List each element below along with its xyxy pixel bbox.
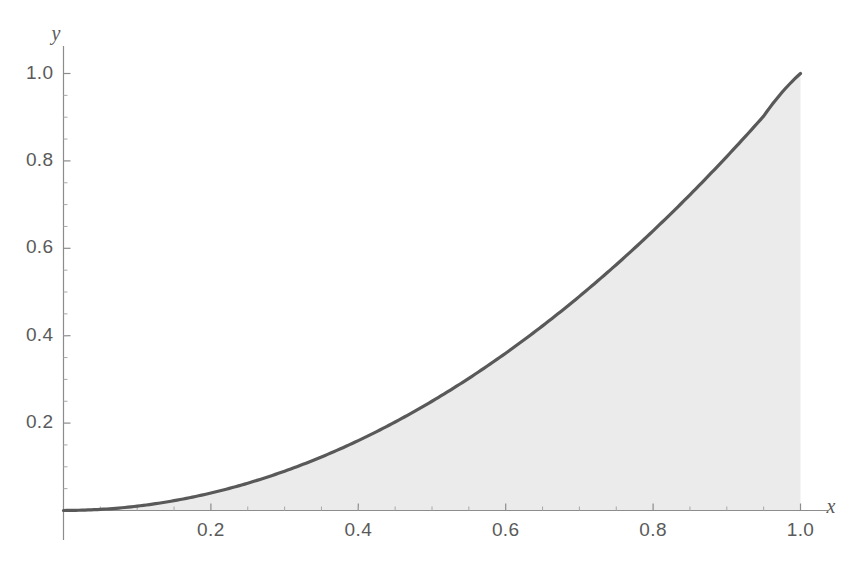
plot-canvas — [0, 0, 854, 565]
y-tick-label: 0.8 — [2, 149, 54, 171]
y-axis-major-ticks — [64, 74, 71, 424]
x-tick-label: 0.2 — [191, 519, 231, 541]
x-tick-label: 0.8 — [633, 519, 673, 541]
y-tick-label: 0.4 — [2, 324, 54, 346]
x-tick-label: 1.0 — [781, 519, 821, 541]
y-axis-label: y — [52, 22, 61, 45]
y-tick-label: 1.0 — [2, 62, 54, 84]
x-tick-label: 0.4 — [338, 519, 378, 541]
chart-figure: 0.20.40.60.81.0 0.20.40.60.81.0 x y — [0, 0, 854, 565]
x-tick-label: 0.6 — [486, 519, 526, 541]
y-tick-label: 0.2 — [2, 411, 54, 433]
area-fill-region — [64, 74, 801, 511]
y-tick-label: 0.6 — [2, 236, 54, 258]
x-axis-label: x — [827, 495, 836, 518]
